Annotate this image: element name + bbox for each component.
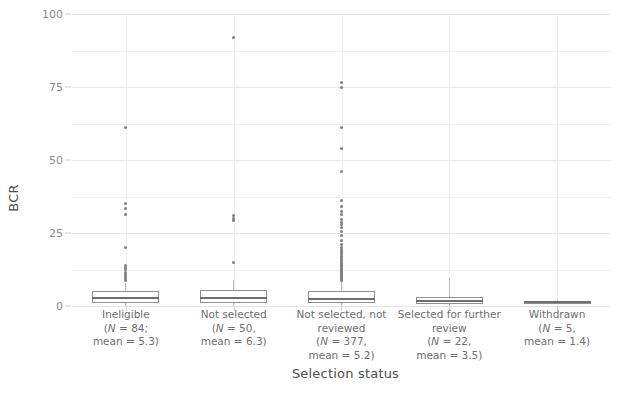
boxplot-outlier-point [340, 86, 343, 89]
x-axis-category-label: Ineligible(N = 84;mean = 5.3) [72, 308, 180, 349]
boxplot-median [416, 300, 483, 302]
boxplot-outlier-point [340, 226, 343, 229]
x-axis-label-line: reviewed [288, 322, 396, 336]
boxplot-group[interactable] [308, 14, 375, 306]
boxplot-outlier-point [340, 81, 343, 84]
x-axis-category-label: Withdrawn(N = 5,mean = 1.4) [503, 308, 611, 349]
boxplot-group[interactable] [200, 14, 267, 306]
y-axis-title: BCR [0, 0, 26, 396]
boxplot-outlier-point [232, 261, 235, 264]
boxplot-group[interactable] [524, 14, 591, 306]
x-axis-label-line: mean = 5.3) [72, 335, 180, 349]
boxplot-chart: BCR 0255075100 Ineligible(N = 84;mean = … [0, 0, 619, 396]
x-axis-label-line: mean = 1.4) [503, 335, 611, 349]
boxplot-outlier-point [340, 230, 343, 233]
boxplot-outlier-point [124, 279, 127, 282]
x-axis-category-label: Not selected(N = 50,mean = 6.3) [180, 308, 288, 349]
x-axis-label-line: (N = 22, [395, 335, 503, 349]
x-axis-label-line: (N = 84; [72, 322, 180, 336]
y-axis-tick-mark [65, 14, 71, 15]
boxplot-median [200, 297, 267, 299]
y-axis-tick-label: 50 [49, 154, 63, 167]
y-axis-tick-mark [65, 160, 71, 161]
x-axis-label-line: Not selected [180, 308, 288, 322]
y-axis-tick-mark [65, 306, 71, 307]
boxplot-outlier-point [340, 170, 343, 173]
x-axis-label-line: (N = 5, [503, 322, 611, 336]
y-axis-tick-mark [65, 233, 71, 234]
x-axis-category-label: Not selected, notreviewed(N = 377,mean =… [288, 308, 396, 362]
boxplot-outlier-point [340, 239, 343, 242]
x-axis-title: Selection status [72, 366, 619, 381]
plot-panel: 0255075100 [72, 14, 611, 306]
x-axis-label-line: (N = 377, [288, 335, 396, 349]
boxplot-outlier-point [340, 147, 343, 150]
x-axis-label-line: mean = 6.3) [180, 335, 288, 349]
boxplot-outlier-point [340, 126, 343, 129]
x-axis-category-label: Selected for furtherreview(N = 22,mean =… [395, 308, 503, 362]
y-axis-tick-mark [65, 87, 71, 88]
x-axis-label-line: Ineligible [72, 308, 180, 322]
x-axis-tick-labels: Ineligible(N = 84;mean = 5.3)Not selecte… [72, 308, 611, 364]
x-axis-label-line: (N = 50, [180, 322, 288, 336]
boxplot-outlier-point [340, 279, 343, 282]
boxplot-group[interactable] [92, 14, 159, 306]
boxplot-outlier-point [340, 199, 343, 202]
y-axis-tick-label: 75 [49, 81, 63, 94]
boxplot-group[interactable] [416, 14, 483, 306]
x-axis-label-line: Not selected, not [288, 308, 396, 322]
y-axis-tick-label: 100 [42, 8, 63, 21]
boxplot-median [308, 298, 375, 300]
boxplot-outlier-point [124, 207, 127, 210]
boxplot-outlier-point [340, 213, 343, 216]
boxplot-outlier-point [340, 234, 343, 237]
x-axis-label-line: Withdrawn [503, 308, 611, 322]
boxplot-median [92, 297, 159, 299]
boxplot-median [524, 301, 591, 303]
y-axis-tick-label: 25 [49, 227, 63, 240]
x-axis-label-line: review [395, 322, 503, 336]
x-axis-label-line: Selected for further [395, 308, 503, 322]
boxplot-outlier-point [124, 126, 127, 129]
y-axis-tick-label: 0 [56, 300, 63, 313]
boxplot-outlier-point [124, 213, 127, 216]
boxplot-outlier-point [124, 246, 127, 249]
boxplot-outlier-point [232, 219, 235, 222]
x-axis-label-line: mean = 5.2) [288, 349, 396, 363]
x-axis-label-line: mean = 3.5) [395, 349, 503, 363]
boxplot-outlier-point [124, 202, 127, 205]
boxplot-outlier-point [340, 205, 343, 208]
boxplot-outlier-point [232, 36, 235, 39]
